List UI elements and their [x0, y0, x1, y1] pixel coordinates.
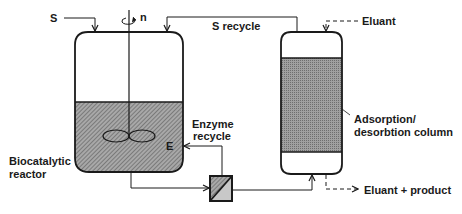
reactor-label-line1: Biocatalytic: [9, 155, 71, 167]
column-label-line1: Adsorption/: [354, 113, 416, 125]
column-label-line2: desorbtion column: [354, 126, 453, 138]
eluant-product-label: Eluant + product: [364, 184, 451, 196]
substrate-feed-line: [64, 18, 95, 31]
process-diagram: [0, 0, 462, 214]
column-packing: [281, 58, 342, 152]
enzyme-recycle-label-line1: Enzyme: [192, 118, 234, 130]
eluant-inlet-line: [326, 21, 358, 31]
enzyme-label: E: [166, 140, 173, 152]
enzyme-recycle-label-line2: recycle: [193, 130, 231, 142]
substrate-feed-label: S: [50, 12, 57, 24]
column-leader-line: [342, 109, 350, 115]
eluant-product-outlet-line: [326, 175, 358, 189]
enzyme-recycle-line: [184, 146, 222, 176]
eluant-in-label: Eluant: [362, 15, 396, 27]
filter-to-column-line: [232, 175, 312, 190]
substrate-recycle-label: S recycle: [212, 20, 260, 32]
membrane-filter-icon: [210, 176, 232, 201]
reactor-label-line2: reactor: [9, 168, 46, 180]
reactor-to-filter-line: [131, 172, 209, 188]
stirrer-speed-label: n: [140, 11, 147, 23]
